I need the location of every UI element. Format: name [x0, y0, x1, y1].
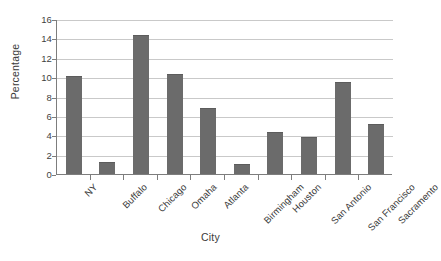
y-axis-tick-label: 16: [32, 15, 52, 25]
x-axis-tick-mark: [90, 175, 91, 180]
bar: [267, 132, 283, 174]
plot-area: [56, 20, 392, 175]
y-axis-tick-label: 0: [32, 170, 52, 180]
x-axis-tick-mark: [157, 175, 158, 180]
gridline: [57, 78, 393, 79]
x-axis-tick-mark: [291, 175, 292, 180]
y-axis-tick-label: 4: [32, 131, 52, 141]
x-axis-tick-label-text: Buffalo: [121, 182, 149, 210]
x-axis-tick-label-text: Omaha: [189, 182, 218, 211]
y-axis-tick-label: 10: [32, 73, 52, 83]
x-axis-tick-label-text: Chicago: [156, 182, 188, 214]
bar: [368, 124, 384, 174]
y-axis-tick-labels: 1614121086420: [26, 0, 52, 261]
x-axis-tick-label-text: San Antonio: [329, 182, 373, 226]
bar: [66, 76, 82, 174]
bar: [234, 164, 250, 174]
y-axis-tick-label: 8: [32, 93, 52, 103]
x-axis-tick-label: Chicago: [156, 182, 188, 214]
gridline: [57, 59, 393, 60]
y-axis-title: Percentage: [10, 10, 21, 134]
x-axis-tick-label: NY: [83, 182, 100, 199]
bar: [200, 108, 216, 174]
bar: [133, 35, 149, 175]
x-axis-tick-mark: [190, 175, 191, 180]
x-axis-tick-mark: [258, 175, 259, 180]
x-axis-tick-mark: [123, 175, 124, 180]
bar: [167, 74, 183, 174]
x-axis-tick-mark: [325, 175, 326, 180]
bar: [301, 137, 317, 174]
x-axis-tick-mark: [224, 175, 225, 180]
y-axis-tick-mark: [52, 175, 56, 176]
x-axis-title: City: [0, 232, 421, 243]
x-axis-tick-label-text: Atlanta: [222, 182, 250, 210]
y-axis-tick-label: 14: [32, 34, 52, 44]
x-axis-tick-label: San Antonio: [329, 182, 373, 226]
x-axis-tick-mark: [358, 175, 359, 180]
x-axis-tick-label: Omaha: [189, 182, 218, 211]
y-axis-tick-label: 6: [32, 112, 52, 122]
x-axis-tick-label: Buffalo: [121, 182, 149, 210]
bar: [99, 162, 115, 174]
y-axis-tick-label: 12: [32, 54, 52, 64]
gridline: [57, 20, 393, 21]
x-axis-tick-label-text: NY: [83, 182, 100, 199]
gridline: [57, 39, 393, 40]
y-axis-tick-label: 2: [32, 151, 52, 161]
x-axis-tick-label: Atlanta: [222, 182, 250, 210]
bar: [335, 82, 351, 174]
